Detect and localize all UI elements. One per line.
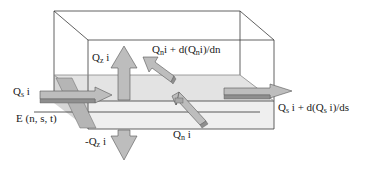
label-qn-in: Qn i [173, 129, 191, 142]
label-qn-out: Qni + d(Qni)/dn [152, 44, 221, 57]
label-e-point: E (n, s, t) [16, 113, 57, 124]
slab-front-face [88, 101, 274, 129]
label-qz-up: Qz i [92, 52, 109, 65]
label-qs-in: Qs i [13, 86, 30, 99]
diagram-canvas [0, 0, 368, 171]
control-volume-diagram: Qz i Qni + d(Qni)/dn Qs i Qs i + d(Qs i)… [0, 0, 368, 171]
label-qz-down: -Qz i [85, 136, 106, 149]
label-qs-out: Qs i + d(Qs i)/ds [278, 102, 349, 115]
qz-down-arrow [111, 130, 137, 160]
